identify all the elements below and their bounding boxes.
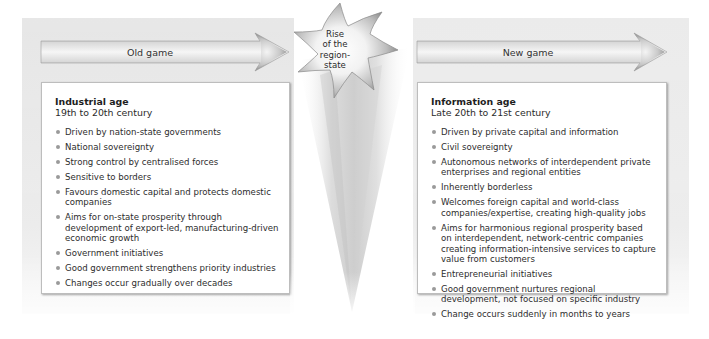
information-age-title: Information age	[431, 96, 656, 107]
information-age-period: Late 20th to 21st century	[431, 107, 656, 118]
star-label-line: of the	[310, 39, 360, 49]
star-label-line: state	[310, 60, 360, 70]
star-label-line: Rise	[310, 29, 360, 39]
list-item: Autonomous networks of interdependent pr…	[431, 157, 656, 178]
industrial-age-box: Industrial age 19th to 20th century Driv…	[41, 82, 290, 294]
list-item: Inherently borderless	[431, 182, 656, 192]
old-game-arrow: Old game	[40, 32, 290, 72]
industrial-age-list: Driven by nation-state governments Natio…	[55, 127, 279, 289]
information-age-box: Information age Late 20th to 21st centur…	[417, 82, 667, 294]
list-item: Good government strengthens priority ind…	[55, 263, 279, 273]
list-item: Sensitive to borders	[55, 172, 279, 182]
list-item: Changes occur gradually over decades	[55, 278, 279, 288]
star-label-line: region-	[310, 50, 360, 60]
list-item: Government initiatives	[55, 248, 279, 258]
information-age-list: Driven by private capital and informatio…	[431, 127, 656, 320]
rise-of-region-state-label: Rise of the region- state	[310, 29, 360, 71]
list-item: Entrepreneurial initiatives	[431, 269, 656, 279]
list-item: National sovereignty	[55, 142, 279, 152]
new-game-arrow: New game	[416, 32, 668, 72]
list-item: Favours domestic capital and protects do…	[55, 187, 279, 208]
list-item: Strong control by centralised forces	[55, 157, 279, 167]
list-item: Driven by nation-state governments	[55, 127, 279, 137]
new-game-label: New game	[416, 32, 640, 72]
industrial-age-title: Industrial age	[55, 96, 279, 107]
list-item: Driven by private capital and informatio…	[431, 127, 656, 137]
list-item: Aims for on-state prosperity through dev…	[55, 212, 279, 243]
industrial-age-period: 19th to 20th century	[55, 107, 279, 118]
list-item: Good government nurtures regional develo…	[431, 284, 656, 305]
list-item: Welcomes foreign capital and world-class…	[431, 197, 656, 218]
list-item: Change occurs suddenly in months to year…	[431, 309, 656, 319]
list-item: Civil sovereignty	[431, 142, 656, 152]
old-game-label: Old game	[40, 32, 260, 72]
list-item: Aims for harmonious regional prosperity …	[431, 223, 656, 265]
